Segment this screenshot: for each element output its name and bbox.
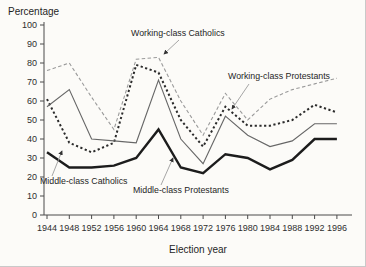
y-tick-label: 70 [27,77,37,87]
x-tick-label: 1968 [171,223,191,233]
x-axis-title: Election year [169,244,227,255]
x-tick-label: 1984 [260,223,280,233]
x-tick-label: 1972 [193,223,213,233]
y-tick-label: 30 [27,153,37,163]
annotation-arrow [52,151,62,176]
x-tick-label: 1988 [282,223,302,233]
annotation-arrow [164,40,179,54]
series-label-working-class-protestants: Working-class Protestants [228,71,331,81]
y-tick-label: 40 [27,134,37,144]
chart-figure: Percentage Election year 010203040506070… [0,0,366,267]
class-voting-line-chart: Percentage Election year 010203040506070… [0,0,366,267]
y-tick-label: 20 [27,172,37,182]
x-tick-label: 1952 [82,223,102,233]
annotation-arrow [232,84,249,109]
x-tick-label: 1992 [305,223,325,233]
series-label-working-class-catholics: Working-class Catholics [131,28,225,38]
x-tick-label: 1964 [148,223,168,233]
y-tick-label: 90 [27,39,37,49]
y-tick-label: 80 [27,58,37,68]
y-tick-label: 60 [27,96,37,106]
y-axis-title: Percentage [8,6,60,17]
x-tick-label: 1960 [126,223,146,233]
y-tick-label: 100 [22,20,37,30]
series-label-middle-class-protestants: Middle-class Protestants [133,185,229,195]
x-tick-label: 1956 [104,223,124,233]
x-tick-label: 1948 [59,223,79,233]
y-tick-label: 10 [27,191,37,201]
y-tick-label: 0 [32,210,37,220]
y-tick-label: 50 [27,115,37,125]
x-tick-label: 1980 [238,223,258,233]
x-tick-label: 1944 [37,223,57,233]
series-label-middle-class-catholics: Middle-class Catholics [40,176,128,186]
x-tick-label: 1976 [215,223,235,233]
annotation-arrow [161,158,173,185]
x-tick-label: 1996 [327,223,347,233]
series-line-working-class-catholics [47,57,337,135]
annotations: Working-class CatholicsWorking-class Pro… [40,28,331,195]
